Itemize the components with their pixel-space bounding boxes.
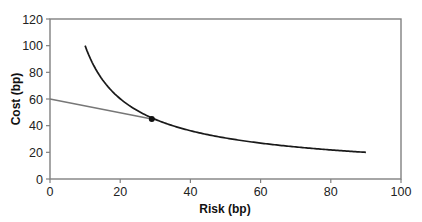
x-axis: 020406080100 [47,179,412,199]
x-tick-label: 40 [183,185,197,199]
optimal-point-marker [149,116,155,122]
y-tick-label: 40 [29,119,43,133]
x-tick-label: 20 [113,185,127,199]
y-tick-label: 80 [29,66,43,80]
y-tick-label: 20 [29,146,43,160]
x-axis-title: Risk (bp) [199,202,250,216]
y-axis-title: Cost (bp) [9,73,23,126]
x-tick-label: 60 [254,185,268,199]
plot-area-border [50,19,401,179]
risk-cost-chart: 020406080100120 020406080100 Risk (bp) C… [0,0,422,222]
frontier-curve [85,46,366,153]
y-axis: 020406080100120 [22,13,50,187]
series-layer [50,46,366,153]
x-tick-label: 80 [324,185,338,199]
y-tick-label: 120 [22,13,43,27]
x-tick-label: 100 [391,185,412,199]
y-tick-label: 60 [29,93,43,107]
plot-frame [50,19,401,179]
y-tick-label: 100 [22,39,43,53]
tangent-line [50,99,152,119]
y-tick-label: 0 [36,173,43,187]
x-tick-label: 0 [47,185,54,199]
